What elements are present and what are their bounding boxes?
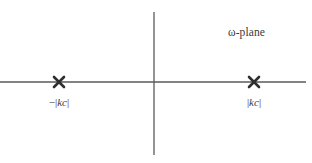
kc-symbol-left: kc [57, 96, 67, 108]
pole-label-positive: |kc| [247, 97, 261, 108]
abs-bar-close-right: | [259, 96, 261, 108]
abs-bar-close-left: | [67, 96, 69, 108]
omega-plane-figure: ω-plane −|kc| |kc| [0, 0, 312, 163]
plane-label: ω-plane [228, 27, 265, 39]
plot-canvas [0, 0, 312, 163]
kc-symbol-right: kc [249, 96, 259, 108]
pole-label-negative: −|kc| [49, 97, 69, 108]
